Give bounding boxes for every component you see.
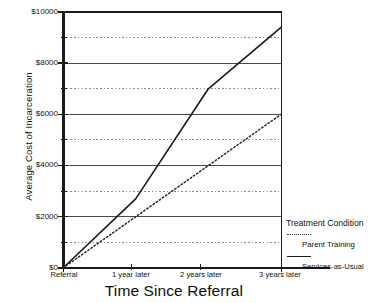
y-axis-title: Average Cost of Incarceration <box>23 37 34 237</box>
legend-label-parent-training: Parent Training <box>302 240 355 249</box>
y-tick-label-6000: $6000 <box>10 110 58 118</box>
y-tick-label-8000: $8000 <box>10 59 58 67</box>
legend-title: Treatment Condition <box>286 218 364 228</box>
grid-minor <box>63 37 282 242</box>
legend: Treatment Condition Parent Training Serv… <box>286 218 377 280</box>
y-tick-label-4000: $4000 <box>10 161 58 169</box>
x-tick-label-2-years-later: 2 years later <box>180 271 222 279</box>
incarceration-cost-line-chart: $10000 $8000 $6000 $4000 $2000 $0 Averag… <box>0 0 377 303</box>
y-tick-label-10000: $10000 <box>10 8 58 16</box>
x-axis-ticks <box>64 258 282 272</box>
legend-swatch-services-as-usual <box>287 256 311 257</box>
y-tick-label-2000: $2000 <box>10 213 58 221</box>
x-axis-title: Time Since Referral <box>60 282 288 300</box>
x-tick-label-1-year-later: 1 year later <box>112 271 150 279</box>
x-tick-label-referral: Referral <box>50 271 77 279</box>
legend-swatch-parent-training <box>287 234 311 235</box>
legend-label-services-as-usual: Services-as-Usual <box>302 262 364 271</box>
